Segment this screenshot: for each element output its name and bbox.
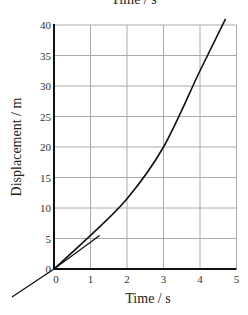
y-tick-label: 5 (46, 233, 52, 245)
y-tick-labels: 0510152025303540 (40, 19, 52, 275)
x-tick-label: 4 (197, 273, 203, 285)
y-tick-label: 30 (40, 80, 52, 92)
x-tick-label: 5 (234, 273, 240, 285)
x-tick-label: 0 (53, 273, 59, 285)
y-tick-label: 15 (40, 172, 52, 184)
y-tick-label: 25 (40, 111, 52, 123)
displacement-time-chart: Time / s 012345 0510152025303540 Time / … (0, 0, 248, 315)
cutoff-top-label: Time / s (111, 0, 156, 7)
grid (54, 25, 237, 269)
x-tick-labels: 012345 (53, 273, 240, 285)
x-axis-label: Time / s (125, 291, 170, 306)
x-tick-label: 3 (161, 273, 167, 285)
y-tick-label: 40 (40, 19, 52, 31)
y-tick-label: 10 (40, 202, 52, 214)
x-tick-label: 1 (88, 273, 94, 285)
y-axis-label: Displacement / m (9, 98, 24, 197)
y-tick-label: 35 (40, 50, 52, 62)
x-tick-label: 2 (124, 273, 130, 285)
y-tick-label: 20 (40, 141, 52, 153)
